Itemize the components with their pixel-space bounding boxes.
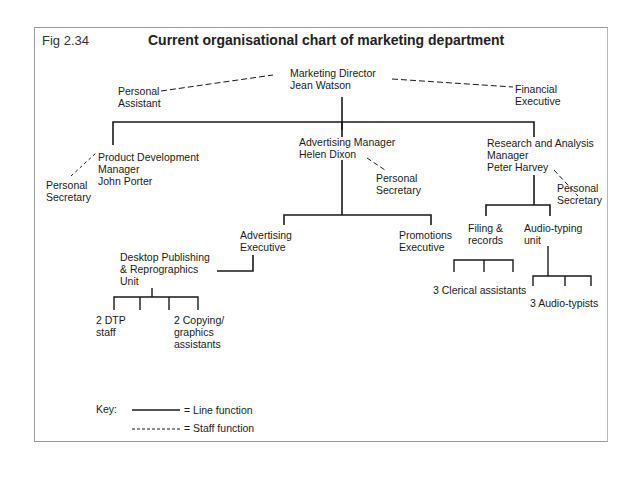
key-staff-function-label: = Staff function: [184, 422, 254, 434]
node-financial-executive: Financial Executive: [515, 83, 561, 107]
node-advertising-manager: Advertising Manager Helen Dixon: [299, 136, 395, 160]
node-copying-graphics-assistants: 2 Copying/ graphics assistants: [174, 314, 224, 350]
key-line-function-label: = Line function: [184, 404, 253, 416]
key-title: Key:: [96, 403, 117, 415]
node-pd-personal-secretary: Personal Secretary: [46, 179, 91, 203]
node-audio-typists: 3 Audio-typists: [530, 297, 598, 309]
node-promotions-executive: Promotions Executive: [399, 229, 452, 253]
node-filing-records: Filing & records: [468, 222, 503, 246]
node-marketing-director: Marketing Director Jean Watson: [290, 67, 376, 91]
node-clerical-assistants: 3 Clerical assistants: [433, 284, 526, 296]
node-audio-typing-unit: Audio-typing unit: [524, 222, 582, 246]
node-personal-assistant: Personal Assistant: [118, 85, 161, 109]
staff-link-pd-secretary: [71, 153, 96, 176]
node-research-analysis-manager: Research and Analysis Manager Peter Harv…: [487, 137, 594, 173]
node-rm-personal-secretary: Personal Secretary: [557, 182, 602, 206]
staff-link-financial-executive: [392, 79, 513, 87]
node-product-development-manager: Product Development Manager John Porter: [98, 151, 199, 187]
node-dtp-unit: Desktop Publishing & Reprographics Unit: [120, 251, 210, 287]
node-advertising-executive: Advertising Executive: [240, 229, 292, 253]
staff-link-personal-assistant: [161, 75, 273, 91]
node-dtp-staff: 2 DTP staff: [96, 314, 126, 338]
node-am-personal-secretary: Personal Secretary: [376, 172, 421, 196]
